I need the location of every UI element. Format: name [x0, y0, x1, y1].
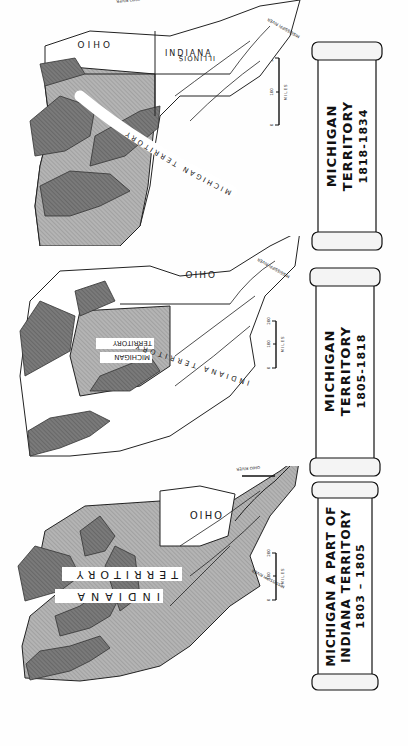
river-label-ohio: OHIO RIVER [116, 0, 140, 4]
scroll-title-line2: INDIANA TERRITORY [339, 509, 353, 663]
scale-bar-1803-1805: 0 100 200 MILES [266, 549, 285, 602]
scale-tick-200: 200 [266, 549, 271, 557]
state-label-ohio: OHIO [74, 39, 110, 49]
scale-tick-0: 0 [266, 598, 271, 601]
map-1818-1834: MICHIGAN TERRITORY OHIO INDIANA ILLINOIS… [0, 0, 310, 246]
map-panel-1805-1818: MICHIGAN TERRITORY INDIANA TERRITORY OHI… [0, 236, 408, 476]
scroll-title-line3: 1803 – 1805 [354, 543, 367, 628]
scale-tick-100: 100 [266, 572, 271, 580]
rotated-canvas: INDIANA TERRITORY OHIO MISSISSIPPI RIVER… [0, 0, 408, 746]
map-plate: INDIANA TERRITORY OHIO MISSISSIPPI RIVER… [0, 0, 408, 746]
map-1805-1818: MICHIGAN TERRITORY INDIANA TERRITORY OHI… [0, 236, 300, 476]
territory-label-line1: MICHIGAN [114, 353, 150, 361]
map-panel-1818-1834: MICHIGAN TERRITORY OHIO INDIANA ILLINOIS… [0, 0, 408, 246]
state-label-ohio: OHIO [183, 269, 215, 279]
state-label-illinois: ILLINOIS [178, 54, 215, 62]
scroll-1803-1805: MICHIGAN A PART OF INDIANA TERRITORY 180… [312, 482, 378, 690]
scroll-title-line1: MICHIGAN A PART OF [324, 506, 338, 667]
scale-unit: MILES [280, 568, 285, 585]
